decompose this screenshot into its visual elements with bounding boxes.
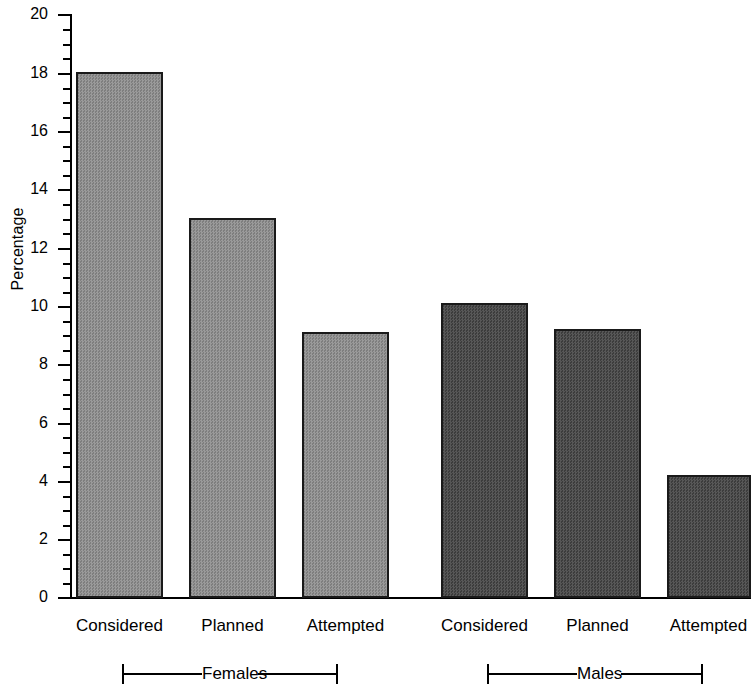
y-tick-label-14: 14 (8, 181, 48, 197)
y-minor-tick (63, 350, 71, 352)
y-minor-tick (63, 160, 71, 162)
group-label-males: Males (577, 662, 621, 686)
y-tick-label-12: 12 (8, 240, 48, 256)
y-minor-tick (63, 525, 71, 527)
bar-males-considered (441, 303, 528, 598)
y-minor-tick (63, 568, 71, 570)
y-minor-tick (63, 554, 71, 556)
bar-females-planned (189, 218, 276, 598)
bracket-line-left (489, 673, 577, 675)
y-tick-8 (58, 364, 71, 366)
y-minor-tick (63, 58, 71, 60)
y-minor-tick (63, 88, 71, 90)
y-minor-tick (63, 292, 71, 294)
y-minor-tick (63, 408, 71, 410)
y-tick-label-6: 6 (8, 415, 48, 431)
y-minor-tick (63, 219, 71, 221)
y-minor-tick (63, 335, 71, 337)
y-minor-tick (63, 29, 71, 31)
y-minor-tick (63, 321, 71, 323)
x-label-females-planned: Planned (172, 617, 293, 634)
y-minor-tick (63, 452, 71, 454)
y-minor-tick (63, 496, 71, 498)
x-label-males-planned: Planned (537, 617, 658, 634)
bar-females-considered (76, 72, 163, 598)
y-minor-tick (63, 233, 71, 235)
y-minor-tick (63, 204, 71, 206)
group-label-females: Females (202, 662, 258, 686)
y-tick-16 (58, 131, 71, 133)
y-minor-tick (63, 437, 71, 439)
y-minor-tick (63, 583, 71, 585)
bar-chart: Percentage 0 2 4 6 8 10 12 14 16 18 20 (0, 0, 751, 696)
y-tick-6 (58, 423, 71, 425)
bracket-line-left (124, 673, 202, 675)
bracket-cap-right (701, 664, 703, 684)
y-tick-label-10: 10 (8, 298, 48, 314)
y-tick-14 (58, 189, 71, 191)
y-minor-tick (63, 379, 71, 381)
y-tick-12 (58, 248, 71, 250)
group-bracket-females: Females (122, 662, 338, 686)
bar-males-planned (554, 329, 641, 598)
y-minor-tick (63, 44, 71, 46)
bar-females-attempted (302, 332, 389, 598)
y-tick-label-8: 8 (8, 356, 48, 372)
y-minor-tick (63, 175, 71, 177)
y-minor-tick (63, 263, 71, 265)
y-tick-label-2: 2 (8, 531, 48, 547)
y-minor-tick (63, 146, 71, 148)
y-minor-tick (63, 466, 71, 468)
y-minor-tick (63, 102, 71, 104)
y-tick-18 (58, 73, 71, 75)
x-label-females-attempted: Attempted (285, 617, 406, 634)
y-minor-tick (63, 394, 71, 396)
x-label-males-considered: Considered (424, 617, 545, 634)
y-tick-10 (58, 306, 71, 308)
bracket-line-right (621, 673, 701, 675)
y-minor-tick (63, 510, 71, 512)
y-tick-label-4: 4 (8, 473, 48, 489)
y-minor-tick (63, 277, 71, 279)
y-tick-20 (58, 14, 71, 16)
y-tick-2 (58, 539, 71, 541)
y-tick-0 (58, 597, 71, 599)
x-label-males-attempted: Attempted (648, 617, 751, 634)
bracket-cap-right (336, 664, 338, 684)
bar-males-attempted (667, 475, 751, 598)
group-bracket-males: Males (487, 662, 703, 686)
y-tick-label-16: 16 (8, 123, 48, 139)
y-minor-tick (63, 117, 71, 119)
y-tick-4 (58, 481, 71, 483)
x-axis-line (70, 597, 751, 599)
y-tick-label-18: 18 (8, 65, 48, 81)
y-tick-label-0: 0 (8, 589, 48, 605)
bracket-line-right (258, 673, 336, 675)
x-label-females-considered: Considered (59, 617, 180, 634)
y-tick-label-20: 20 (8, 6, 48, 22)
